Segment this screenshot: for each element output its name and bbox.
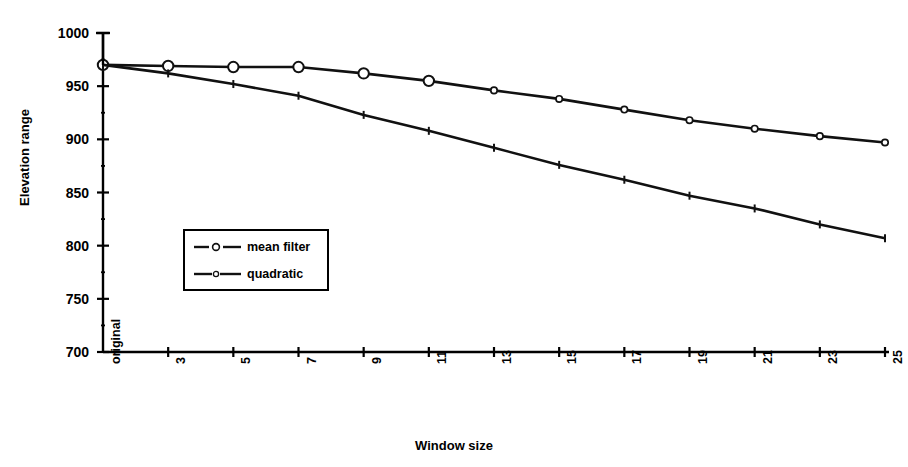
x-tick-label: 11 — [435, 351, 449, 364]
legend-label-mean-filter: mean filter — [247, 240, 310, 254]
data-point — [228, 62, 238, 72]
x-tick-label: 5 — [239, 357, 253, 364]
x-tick-label: 19 — [696, 350, 710, 364]
data-point — [882, 139, 888, 145]
y-tick-label: 1000 — [31, 25, 89, 41]
legend-label-quadratic: quadratic — [247, 267, 303, 281]
data-point — [817, 133, 823, 139]
series-line — [103, 65, 885, 143]
plot-area — [0, 0, 908, 467]
x-tick-label: 21 — [761, 350, 775, 364]
y-tick-label: 750 — [31, 291, 89, 307]
x-axis-title: Window size — [0, 438, 908, 453]
x-tick-label: 13 — [500, 350, 514, 364]
data-point — [621, 106, 627, 112]
legend-swatch-quadratic — [193, 267, 243, 281]
x-tick-label: 9 — [370, 357, 384, 364]
data-point — [556, 96, 562, 102]
legend-item-quadratic: quadratic — [193, 264, 303, 284]
x-tick-label: 3 — [174, 357, 188, 364]
data-point — [424, 76, 434, 86]
x-tick-label: 15 — [565, 350, 579, 364]
legend: mean filter quadratic — [183, 229, 329, 291]
data-point — [358, 68, 368, 78]
x-tick-label: 17 — [630, 350, 644, 364]
series-layer — [98, 60, 888, 243]
legend-item-mean-filter: mean filter — [193, 237, 310, 257]
chart-container: Elevation range Window size 700750800850… — [0, 0, 908, 467]
data-point — [686, 117, 692, 123]
x-tick-label: 25 — [891, 350, 905, 364]
error-bar-original — [96, 33, 110, 65]
y-axis-title: Elevation range — [17, 78, 32, 238]
data-point — [491, 87, 497, 93]
y-tick-label: 900 — [31, 131, 89, 147]
data-point — [751, 126, 757, 132]
x-tick-label: original — [109, 319, 123, 364]
legend-swatch-mean-filter — [193, 240, 243, 254]
data-point — [293, 62, 303, 72]
x-tick-label: 23 — [826, 350, 840, 364]
x-tick-label: 7 — [305, 357, 319, 364]
series-mean-filter — [98, 60, 888, 146]
y-tick-label: 950 — [31, 78, 89, 94]
y-tick-label: 800 — [31, 238, 89, 254]
y-tick-label: 850 — [31, 185, 89, 201]
y-tick-label: 700 — [31, 344, 89, 360]
